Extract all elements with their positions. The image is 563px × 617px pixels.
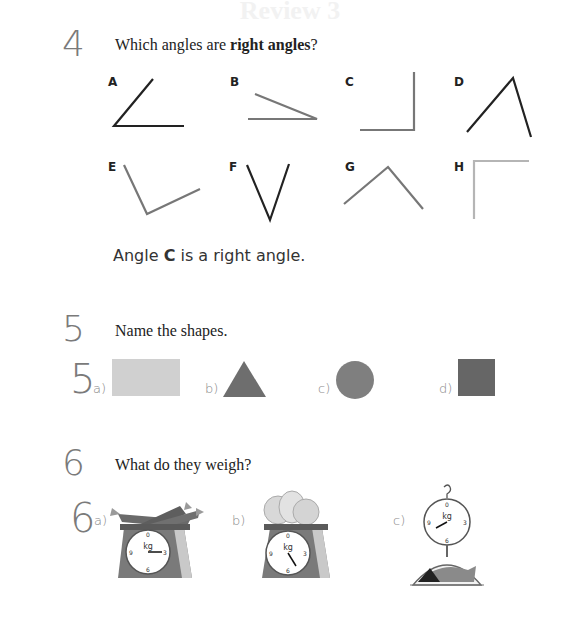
fish-icon	[418, 566, 476, 582]
svg-text:6: 6	[445, 537, 449, 544]
svg-text:kg: kg	[442, 512, 452, 521]
svg-text:9: 9	[427, 519, 431, 526]
svg-text:3: 3	[463, 519, 467, 526]
svg-text:0: 0	[445, 501, 449, 508]
hanging-scale-fish-illustration: kg 0 3 6 9	[0, 0, 563, 617]
